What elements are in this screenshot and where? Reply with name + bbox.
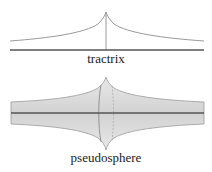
pseudosphere-label: pseudosphere (0, 150, 212, 166)
tractrix-label: tractrix (0, 51, 212, 67)
tractrix-figure (10, 12, 204, 50)
pseudosphere-figure (11, 77, 204, 150)
tractrix-curve (10, 12, 204, 41)
diagram-canvas (0, 0, 212, 172)
